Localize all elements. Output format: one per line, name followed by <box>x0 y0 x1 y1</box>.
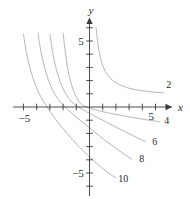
curve-label-4: 4 <box>164 115 169 126</box>
curve-label-8: 8 <box>139 153 144 164</box>
curve-label-10: 10 <box>118 173 128 184</box>
y-axis-arrowhead <box>86 18 92 25</box>
y-axis-name: y <box>88 4 94 16</box>
curve-label-6: 6 <box>152 136 157 147</box>
curve-8 <box>38 33 132 159</box>
math-graph-figure: yx−555−5246810 <box>0 0 190 199</box>
y-tick-label-minus5: −5 <box>72 167 84 179</box>
x-axis-arrowhead <box>166 104 173 110</box>
curve-label-2: 2 <box>166 79 171 90</box>
curve-10 <box>24 34 116 178</box>
coordinate-plot: yx−555−5246810 <box>0 0 190 199</box>
x-tick-label-minus5: −5 <box>19 112 31 124</box>
curve-6 <box>50 34 146 141</box>
curve-2 <box>96 28 163 93</box>
y-tick-label-5: 5 <box>78 35 84 47</box>
x-axis-name: x <box>177 101 183 113</box>
x-tick-label-5: 5 <box>148 110 154 122</box>
